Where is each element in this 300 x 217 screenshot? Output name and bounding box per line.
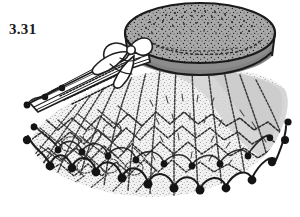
figure-container: 3.31 — [0, 0, 300, 217]
line-drawing-illustration — [0, 0, 300, 217]
figure-number: 3.31 — [9, 22, 36, 37]
